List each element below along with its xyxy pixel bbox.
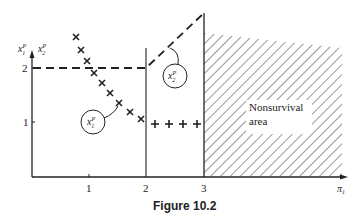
- x-tick-label-2: 2: [143, 182, 149, 194]
- region-label-line1: Nonsurvival: [249, 101, 303, 113]
- y-axis-arrow-icon: [30, 50, 35, 58]
- x2p-label-circle: [163, 64, 187, 88]
- x-tick-label-3: 3: [201, 182, 207, 194]
- x2p-label-pointer: [170, 48, 178, 64]
- x1p-label-circle: [81, 110, 105, 134]
- y-tick-label-1: 1: [23, 116, 29, 128]
- y-axis-label-x2p: xP2: [37, 43, 46, 56]
- y-axis-label-x1p: xP1: [17, 43, 26, 56]
- x-axis-label: π1: [337, 183, 345, 195]
- y-tick-label-2: 2: [22, 62, 28, 74]
- x-axis-arrow-icon: [340, 175, 348, 180]
- x1p-plus-markers: [151, 120, 201, 128]
- x-tick-label-1: 1: [86, 182, 92, 194]
- figure-canvas: xP1 xP2 xP1 xP2 2 1 1 2 3 π1 Nonsurvival…: [0, 0, 364, 214]
- figure-caption: Figure 10.2: [153, 199, 217, 213]
- x1p-label-pointer: [104, 106, 118, 118]
- region-label-line2: area: [249, 115, 267, 127]
- x1p-markers: [73, 34, 144, 122]
